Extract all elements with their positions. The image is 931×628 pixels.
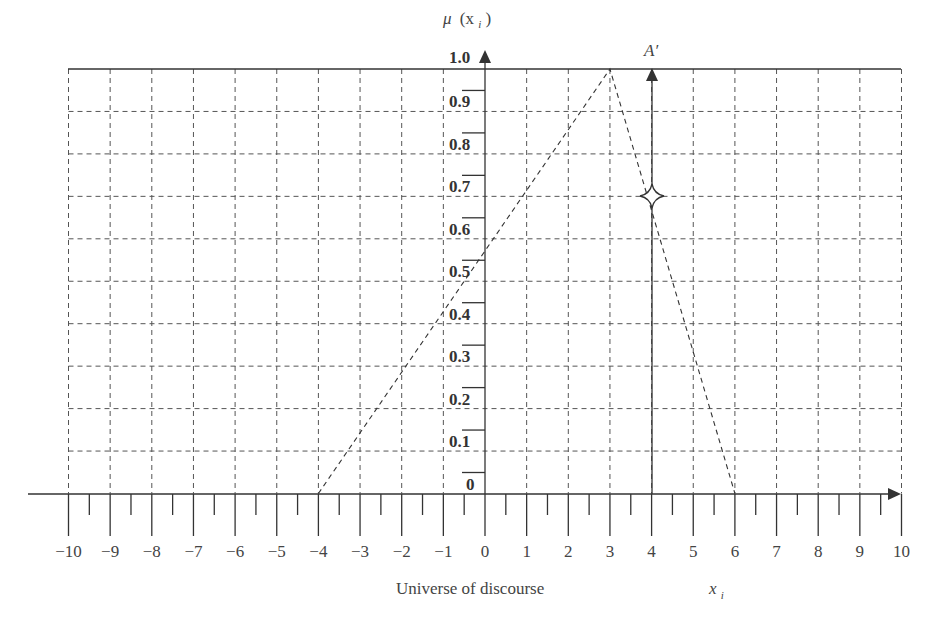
x-tick-label: 6 — [731, 542, 740, 561]
x-tick-label: 4 — [647, 542, 656, 561]
y-tick-label: 0 — [466, 475, 475, 494]
x-tick-label: −2 — [393, 542, 411, 561]
y-axis-tick-labels: 00.10.20.30.40.50.60.70.80.91.0 — [449, 48, 485, 494]
a-prime-label: A′ — [643, 41, 658, 60]
membership-chart: 00.10.20.30.40.50.60.70.80.91.0 −10−9−8−… — [0, 0, 931, 628]
x-tick-label: 10 — [893, 542, 910, 561]
x-axis-arrow-icon — [888, 488, 901, 500]
x-tick-label: −6 — [226, 542, 244, 561]
y-tick-label: 0.9 — [449, 92, 470, 111]
x-tick-label: −4 — [309, 542, 328, 561]
x-tick-label: 2 — [564, 542, 573, 561]
x-tick-label: 7 — [772, 542, 781, 561]
y-tick-label: 0.3 — [449, 347, 470, 366]
x-tick-label: −8 — [143, 542, 161, 561]
y-tick-label: 0.5 — [449, 262, 470, 281]
x-tick-label: 8 — [814, 542, 823, 561]
y-axis-title: μ (x i ) — [442, 9, 491, 32]
y-tick-label: 0.4 — [449, 305, 471, 324]
x-tick-label: −1 — [434, 542, 452, 561]
x-axis-variable: x i — [708, 579, 724, 601]
x-axis-tick-labels: −10−9−8−7−6−5−4−3−2−1012345678910 — [55, 542, 910, 561]
x-tick-label: −9 — [101, 542, 119, 561]
x-tick-label: −3 — [351, 542, 369, 561]
x-tick-label: 1 — [522, 542, 531, 561]
x-axis-ticks — [69, 494, 902, 536]
star-marker-icon — [640, 184, 664, 208]
a-prime-arrow-icon — [646, 68, 658, 81]
x-tick-label: −7 — [184, 542, 203, 561]
y-tick-label: 1.0 — [449, 48, 470, 67]
x-tick-label: −5 — [268, 542, 286, 561]
y-tick-label: 0.7 — [449, 177, 471, 196]
y-axis-arrow-icon — [479, 50, 491, 63]
y-tick-label: 0.8 — [449, 135, 470, 154]
x-tick-label: 9 — [856, 542, 865, 561]
x-tick-label: −10 — [55, 542, 82, 561]
y-tick-label: 0.2 — [449, 390, 470, 409]
x-tick-label: 3 — [606, 542, 615, 561]
x-axis-caption: Universe of discourse — [396, 579, 544, 598]
y-tick-label: 0.6 — [449, 220, 470, 239]
x-tick-label: 5 — [689, 542, 698, 561]
y-tick-label: 0.1 — [449, 432, 470, 451]
x-tick-label: 0 — [481, 542, 490, 561]
